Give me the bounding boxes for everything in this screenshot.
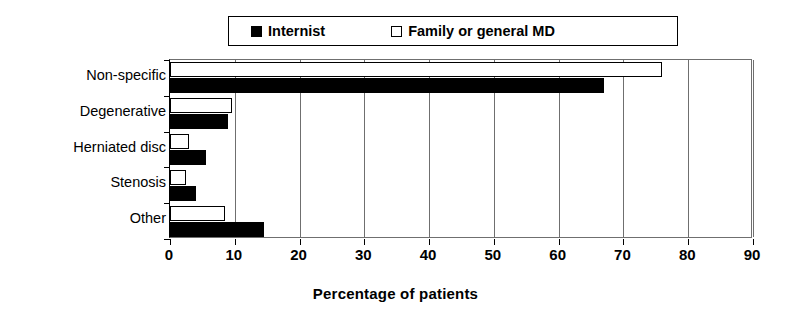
bar-group — [170, 167, 751, 203]
x-tick-mark — [300, 239, 301, 245]
legend-entry-internist: Internist — [251, 23, 325, 39]
x-tick-mark — [753, 239, 754, 245]
x-tick-label-10: 10 — [214, 247, 254, 262]
bar — [170, 170, 186, 185]
x-tick-mark — [494, 239, 495, 245]
bar — [170, 150, 206, 165]
legend-entry-family-or-general-md: Family or general MD — [391, 23, 555, 39]
x-tick-mark — [364, 239, 365, 245]
filled-square-icon — [251, 26, 262, 37]
bar — [170, 78, 604, 93]
x-tick-mark — [170, 239, 171, 245]
x-tick-label-20: 20 — [279, 247, 319, 262]
gridline-90 — [753, 60, 754, 237]
x-tick-mark — [235, 239, 236, 245]
legend-label-internist: Internist — [268, 23, 325, 39]
y-tick-mark — [164, 167, 170, 168]
bar — [170, 134, 189, 149]
x-tick-label-60: 60 — [538, 247, 578, 262]
legend-label-family-or-general-md: Family or general MD — [408, 23, 555, 39]
x-tick-label-40: 40 — [408, 247, 448, 262]
bar — [170, 206, 225, 221]
bar-group — [170, 96, 751, 132]
x-tick-label-30: 30 — [343, 247, 383, 262]
x-axis-title: Percentage of patients — [0, 285, 791, 302]
y-tick-label-stenosis: Stenosis — [110, 175, 166, 190]
bar-group — [170, 60, 751, 96]
x-tick-mark — [429, 239, 430, 245]
y-tick-mark — [164, 60, 170, 61]
bar — [170, 62, 662, 77]
plot-area — [169, 59, 752, 238]
x-tick-label-0: 0 — [149, 247, 189, 262]
x-tick-label-90: 90 — [732, 247, 772, 262]
y-tick-mark — [164, 96, 170, 97]
x-tick-label-70: 70 — [602, 247, 642, 262]
bar — [170, 98, 232, 113]
bar-group — [170, 132, 751, 168]
y-tick-mark — [164, 132, 170, 133]
bar — [170, 114, 228, 129]
bar — [170, 222, 264, 237]
bar-chart-figure: Internist Family or general MD Non-speci… — [0, 0, 791, 323]
chart-legend: Internist Family or general MD — [228, 16, 678, 46]
bar-group — [170, 203, 751, 239]
y-tick-mark — [164, 203, 170, 204]
x-tick-mark — [688, 239, 689, 245]
x-tick-mark — [559, 239, 560, 245]
y-tick-label-herniated-disc: Herniated disc — [73, 140, 166, 155]
hollow-square-icon — [391, 26, 402, 37]
y-tick-label-other: Other — [130, 211, 166, 226]
x-tick-label-80: 80 — [667, 247, 707, 262]
y-tick-label-non-specific: Non-specific — [86, 68, 166, 83]
x-tick-label-50: 50 — [473, 247, 513, 262]
bar — [170, 186, 196, 201]
y-tick-label-degenerative: Degenerative — [80, 104, 166, 119]
x-tick-mark — [623, 239, 624, 245]
